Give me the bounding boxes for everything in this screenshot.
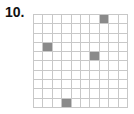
grid-cell <box>72 99 81 108</box>
grid-cell <box>119 34 128 43</box>
grid-cell <box>53 89 62 98</box>
grid-cell <box>100 24 109 33</box>
grid-cell <box>109 71 118 80</box>
grid-cell <box>43 71 52 80</box>
grid-cell <box>53 61 62 70</box>
grid-cell <box>34 99 43 108</box>
grid-cell <box>34 52 43 61</box>
grid-cell <box>62 24 71 33</box>
grid-cell <box>43 52 52 61</box>
grid-cell <box>43 24 52 33</box>
grid-cell <box>100 89 109 98</box>
grid-cell <box>34 80 43 89</box>
grid-cell <box>34 43 43 52</box>
problem-number: 10. <box>5 4 24 20</box>
grid-cell <box>72 34 81 43</box>
grid-cell <box>81 15 90 24</box>
grid-cell <box>90 71 99 80</box>
grid-cell <box>109 61 118 70</box>
grid-cell <box>100 43 109 52</box>
grid-cell <box>43 15 52 24</box>
grid-cell <box>62 43 71 52</box>
grid-cell <box>90 24 99 33</box>
grid-cell <box>62 52 71 61</box>
shaded-cell <box>62 99 71 108</box>
grid-cell <box>72 61 81 70</box>
grid-cell <box>119 15 128 24</box>
shaded-cell <box>100 15 109 24</box>
grid-cell <box>53 24 62 33</box>
grid-cell <box>34 34 43 43</box>
grid-cell <box>90 89 99 98</box>
grid-cell <box>43 89 52 98</box>
grid-cell <box>53 15 62 24</box>
grid-cell <box>53 71 62 80</box>
grid-cell <box>72 89 81 98</box>
grid-cell <box>72 52 81 61</box>
grid-cell <box>100 71 109 80</box>
grid-cell <box>119 99 128 108</box>
grid-cell <box>72 71 81 80</box>
grid-cell <box>90 99 99 108</box>
grid-cell <box>90 43 99 52</box>
shaded-cell <box>90 52 99 61</box>
grid-cell <box>53 99 62 108</box>
grid-cell <box>109 43 118 52</box>
grid-cell <box>119 80 128 89</box>
grid-cell <box>53 34 62 43</box>
grid-cell <box>34 15 43 24</box>
grid-cell <box>72 80 81 89</box>
grid-cell <box>109 80 118 89</box>
grid-cell <box>119 43 128 52</box>
grid-cell <box>109 99 118 108</box>
grid-cell <box>81 52 90 61</box>
grid-cell <box>119 24 128 33</box>
grid-cell <box>119 52 128 61</box>
grid-cell <box>81 80 90 89</box>
grid-cell <box>81 61 90 70</box>
grid-cell <box>81 24 90 33</box>
grid-cell <box>100 34 109 43</box>
grid-cell <box>100 52 109 61</box>
grid-cell <box>81 71 90 80</box>
grid-cell <box>53 80 62 89</box>
grid-cell <box>90 61 99 70</box>
grid-cell <box>119 89 128 98</box>
grid-cell <box>62 15 71 24</box>
grid-cell <box>109 89 118 98</box>
grid-cell <box>62 80 71 89</box>
grid-cell <box>81 34 90 43</box>
grid-cell <box>119 61 128 70</box>
grid-cell <box>62 34 71 43</box>
grid-cell <box>72 24 81 33</box>
grid-cell <box>109 24 118 33</box>
grid-cell <box>53 52 62 61</box>
grid-cell <box>119 71 128 80</box>
grid-cell <box>43 99 52 108</box>
grid-cell <box>43 80 52 89</box>
grid-cell <box>81 99 90 108</box>
grid-cell <box>34 89 43 98</box>
grid-cell <box>72 15 81 24</box>
grid-cell <box>109 34 118 43</box>
grid-cell <box>90 34 99 43</box>
grid-cell <box>43 61 52 70</box>
square-grid <box>33 14 128 108</box>
grid-cell <box>90 15 99 24</box>
grid-cell <box>62 61 71 70</box>
grid-cell <box>81 43 90 52</box>
shaded-cell <box>43 43 52 52</box>
grid-cell <box>100 99 109 108</box>
grid-cell <box>34 24 43 33</box>
grid-cell <box>34 71 43 80</box>
grid-cell <box>109 52 118 61</box>
grid-cell <box>100 61 109 70</box>
grid-cell <box>62 89 71 98</box>
grid-cell <box>100 80 109 89</box>
grid-cell <box>81 89 90 98</box>
grid-cell <box>109 15 118 24</box>
grid-cell <box>34 61 43 70</box>
grid-cell <box>90 80 99 89</box>
grid-cell <box>43 34 52 43</box>
grid-cell <box>62 71 71 80</box>
